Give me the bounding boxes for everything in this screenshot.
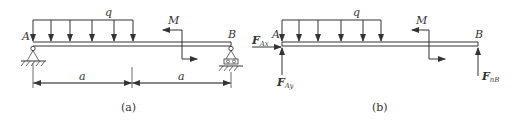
load-label-q: q: [353, 6, 360, 19]
point-b-label: B: [474, 28, 483, 41]
load-label-q: q: [105, 6, 112, 19]
point-a-label: A: [271, 28, 280, 41]
figure-a: q M A B: [21, 6, 243, 114]
pin-support-a: [21, 46, 46, 66]
caption-b: (b): [372, 101, 388, 114]
beam-diagrams: q M A B: [0, 0, 513, 124]
distributed-load-b: [282, 20, 381, 41]
beam-b: [282, 42, 478, 46]
figure-b: q M A B FAx FAy FnB (b): [251, 6, 499, 114]
moment-arrow-a: [163, 30, 197, 59]
point-b-label: B: [227, 28, 236, 41]
dimension-label-right: a: [178, 70, 185, 83]
dimension-label-left: a: [79, 70, 86, 83]
beam-a: [33, 42, 231, 46]
fay-label: FAy: [276, 76, 295, 90]
dimension-lines-a: [33, 63, 231, 88]
fnb-label: FnB: [481, 70, 499, 84]
moment-label-m: M: [415, 14, 428, 27]
fax-label: FAx: [251, 34, 269, 48]
distributed-load-a: [33, 20, 133, 41]
moment-label-m: M: [167, 14, 180, 27]
caption-a: (a): [121, 101, 136, 114]
point-a-label: A: [21, 30, 30, 43]
roller-support-b: [219, 46, 243, 71]
moment-arrow-b: [412, 30, 445, 59]
